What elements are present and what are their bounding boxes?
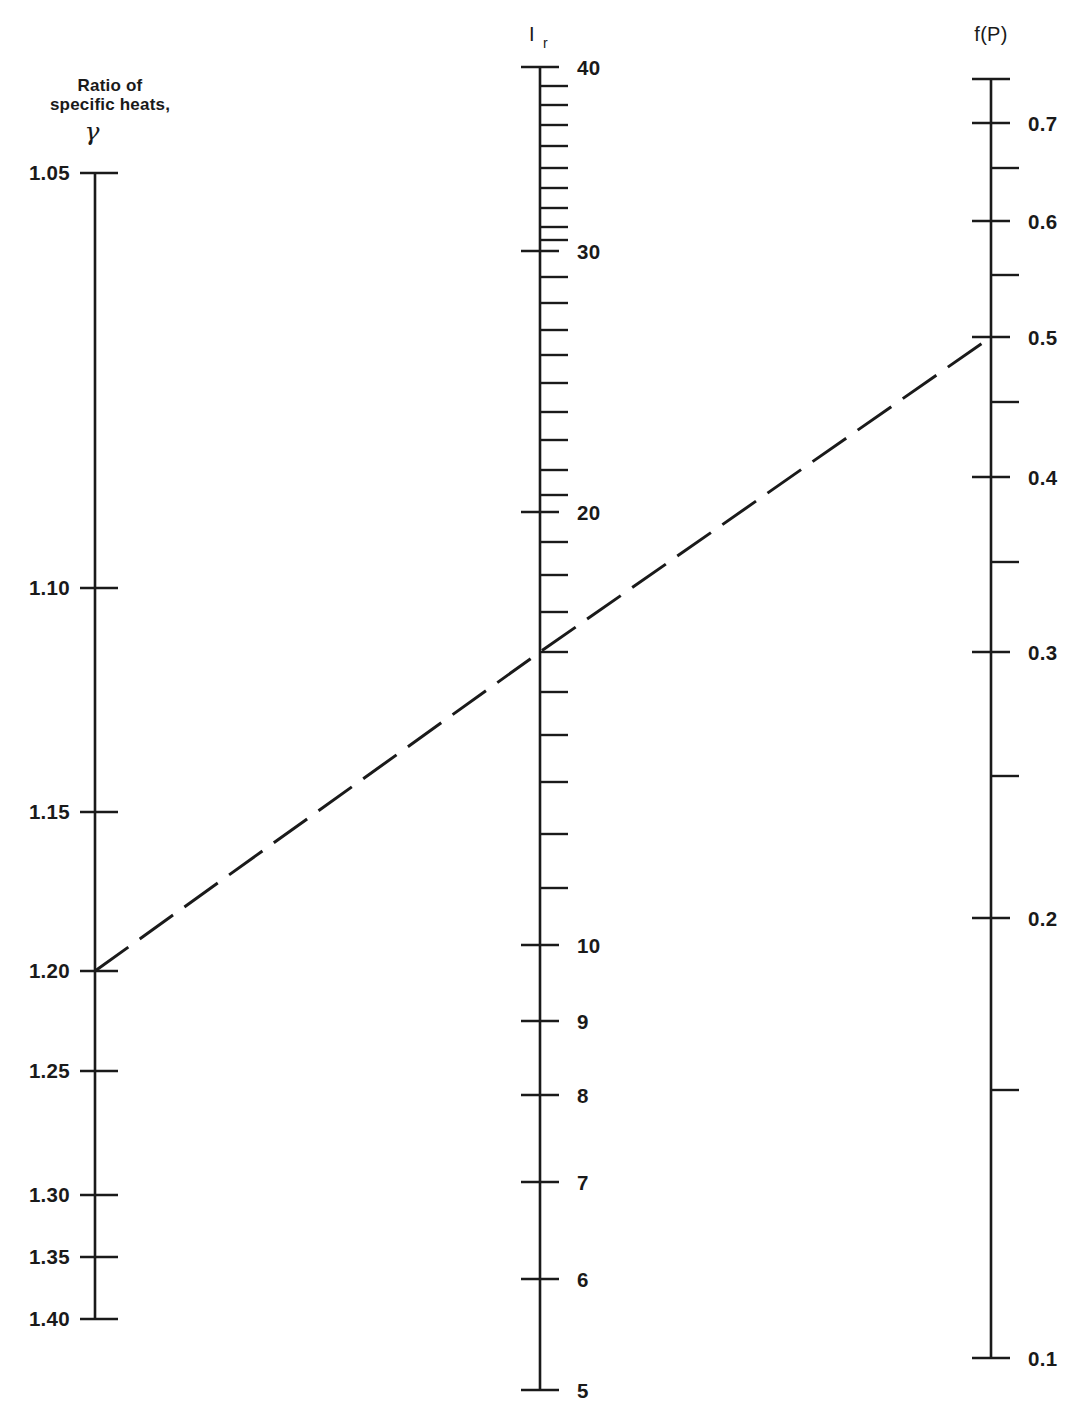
gamma-tick-label-1-40: 1.40 [29, 1307, 70, 1330]
fp-tick-label-0-1: 0.1 [1028, 1347, 1057, 1370]
gamma-tick-label-1-30: 1.30 [29, 1183, 70, 1206]
gamma-tick-label-1-05: 1.05 [29, 161, 70, 184]
ir-tick-label-10: 10 [577, 934, 600, 957]
ir-tick-label-40: 40 [577, 56, 600, 79]
nomogram-canvas: 1.05 1.10 1.15 1.20 1.25 1.30 1.35 1.40 … [0, 0, 1079, 1424]
ir-tick-label-20: 20 [577, 501, 600, 524]
ir-axis-header-symbol: I [529, 23, 535, 45]
fp-axis-header: f(P) [974, 23, 1007, 45]
ir-tick-label-6: 6 [577, 1268, 589, 1291]
ir-axis-header-subscript: r [543, 35, 548, 51]
fp-tick-label-0-5: 0.5 [1028, 326, 1057, 349]
ir-tick-label-7: 7 [577, 1171, 589, 1194]
fp-axis-group: 0.7 0.6 0.5 0.4 0.3 0.2 0.1 f(P) [972, 23, 1058, 1370]
fp-tick-label-0-6: 0.6 [1028, 210, 1057, 233]
gamma-axis-group: 1.05 1.10 1.15 1.20 1.25 1.30 1.35 1.40 … [29, 76, 170, 1330]
ir-tick-label-5: 5 [577, 1379, 589, 1402]
gamma-tick-label-1-35: 1.35 [29, 1245, 70, 1268]
fp-tick-label-0-7: 0.7 [1028, 112, 1057, 135]
ir-tick-label-9: 9 [577, 1010, 589, 1033]
index-line [95, 337, 991, 971]
fp-tick-label-0-3: 0.3 [1028, 641, 1057, 664]
gamma-tick-label-1-20: 1.20 [29, 959, 70, 982]
ir-tick-label-8: 8 [577, 1084, 589, 1107]
index-line-group [95, 337, 991, 971]
gamma-axis-header-line1: Ratio of [78, 76, 143, 95]
ir-tick-label-30: 30 [577, 240, 600, 263]
gamma-tick-label-1-10: 1.10 [29, 576, 70, 599]
ir-axis-group: 40 30 20 10 9 8 7 6 5 I r [521, 23, 600, 1402]
gamma-tick-label-1-15: 1.15 [29, 800, 70, 823]
nomogram-figure: 1.05 1.10 1.15 1.20 1.25 1.30 1.35 1.40 … [0, 0, 1079, 1424]
gamma-symbol: γ [85, 117, 100, 146]
fp-tick-label-0-4: 0.4 [1028, 466, 1058, 489]
gamma-tick-label-1-25: 1.25 [29, 1059, 70, 1082]
fp-tick-label-0-2: 0.2 [1028, 907, 1057, 930]
gamma-axis-header-line2: specific heats, [50, 95, 170, 114]
